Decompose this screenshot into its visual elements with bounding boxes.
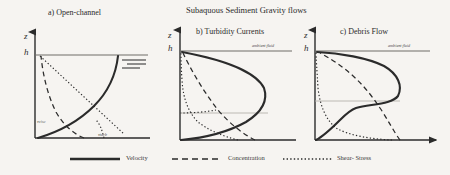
panel-b-ambient-fluid-label: ambient fluid — [252, 44, 274, 48]
panel-debris-flow — [315, 30, 436, 140]
panel-a-tau-turbulent-label: τturb — [98, 133, 107, 138]
panel-b-title: b) Turbidity Currents — [196, 28, 264, 36]
panel-a-concentration-curve — [41, 56, 84, 138]
water-surface-lines-icon — [122, 60, 146, 68]
panel-a-title: a) Open-channel — [48, 9, 101, 17]
panel-b-concentration-curve — [183, 53, 255, 140]
panel-c-title: c) Debris Flow — [340, 28, 388, 36]
panel-c-height-label: h — [304, 44, 309, 53]
panel-c-ambient-fluid-label: ambient fluid — [388, 44, 410, 48]
panel-a-height-label: h — [24, 48, 29, 57]
panel-c-axis-y-label: z — [304, 31, 308, 40]
legend-label-shear-stress: Shear- Stress — [337, 155, 371, 162]
panel-b-axis-y-label: z — [168, 31, 172, 40]
panel-b-velocity-curve — [181, 52, 265, 140]
panel-b-height-label: h — [168, 44, 173, 53]
panel-a-tau-viscous-label: τvisc — [37, 120, 46, 125]
legend-label-concentration: Concentration — [228, 155, 265, 162]
legend-label-velocity: Velocity — [126, 155, 148, 162]
panel-c-velocity-curve — [316, 52, 400, 140]
scientific-figure: Subaquous Sediment Gravity flows a) Open… — [0, 0, 450, 175]
panel-a-axis-y-label: z — [24, 32, 28, 41]
panel-turbidity-currents — [180, 30, 296, 140]
figure-main-title: Subaquous Sediment Gravity flows — [186, 6, 307, 15]
panel-a-shear-stress-curve — [40, 56, 124, 134]
panel-open-channel — [35, 32, 150, 138]
